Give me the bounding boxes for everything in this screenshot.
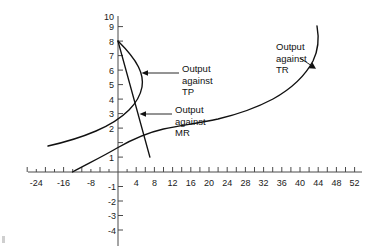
x-tick-label: 20 xyxy=(204,178,214,188)
y-tick-label: -4 xyxy=(108,226,116,236)
y-tick-label: 10 xyxy=(104,12,114,22)
x-tick-label: 48 xyxy=(331,178,341,188)
x-tick-label: -16 xyxy=(57,178,70,188)
x-tick-label: 12 xyxy=(168,178,178,188)
page-corner-artifact xyxy=(2,236,5,243)
x-tick-label: 40 xyxy=(295,178,305,188)
x-tick-label: 8 xyxy=(152,178,157,188)
y-tick-label: 3 xyxy=(109,109,114,119)
x-tick-label: 32 xyxy=(259,178,269,188)
y-tick-label: 6 xyxy=(109,66,114,76)
x-tick-label: 28 xyxy=(240,178,250,188)
x-tick-label: 4 xyxy=(134,178,139,188)
annotation-output-against-tr: Output against TR xyxy=(276,41,307,76)
y-tick-label: 4 xyxy=(109,95,114,105)
x-tick-label: 24 xyxy=(222,178,232,188)
chart-figure: -24 -16 -8 4 8 12 16 20 24 28 32 36 40 4… xyxy=(0,0,366,252)
x-axis-tick-labels: -24 -16 -8 4 8 12 16 20 24 28 32 36 40 4… xyxy=(30,178,360,188)
x-tick-label: 36 xyxy=(277,178,287,188)
y-tick-label: 5 xyxy=(109,80,114,90)
curve-output-against-tp xyxy=(48,41,142,146)
y-tick-label: -3 xyxy=(108,211,116,221)
annotation-output-against-tp: Output against TP xyxy=(182,63,213,98)
x-tick-label: -24 xyxy=(30,178,43,188)
x-tick-label: -8 xyxy=(87,178,95,188)
annotation-output-against-mr: Output against MR xyxy=(175,104,206,139)
leader-line-mr xyxy=(140,111,173,116)
x-tick-label: 16 xyxy=(186,178,196,188)
y-tick-label: 1 xyxy=(109,153,114,163)
y-tick-label: 7 xyxy=(109,51,114,61)
leader-line-tp xyxy=(142,70,180,75)
y-tick-label: -1 xyxy=(108,182,116,192)
y-tick-label: -2 xyxy=(108,197,116,207)
x-tick-label: 44 xyxy=(313,178,323,188)
y-tick-label: 9 xyxy=(109,22,114,32)
y-tick-label: 8 xyxy=(109,37,114,47)
x-tick-label: 52 xyxy=(350,178,360,188)
